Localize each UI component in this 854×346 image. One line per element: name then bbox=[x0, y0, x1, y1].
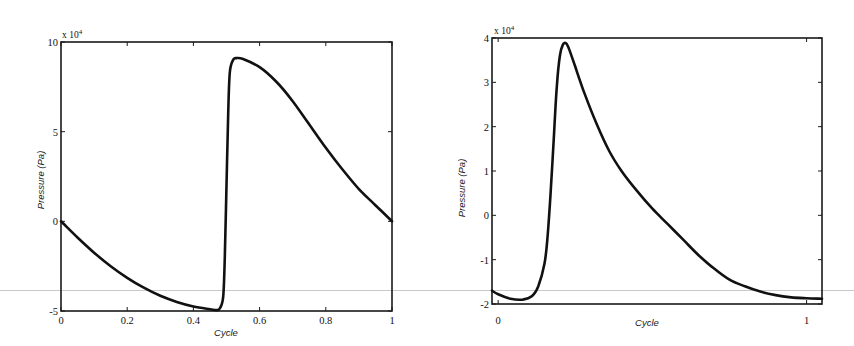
x-tick-label: 0 bbox=[496, 315, 501, 326]
y-tick-label: 2 bbox=[484, 122, 489, 133]
x-tick-label: 1 bbox=[389, 315, 394, 326]
pressure-curve bbox=[492, 43, 822, 300]
x-tick-label: 0 bbox=[58, 315, 63, 326]
right-x-axis-title: Cycle bbox=[635, 317, 659, 328]
right-chart: 01-2-101234 x 104 Cycle Pressure (Pa) bbox=[427, 0, 854, 346]
y-tick-label: -2 bbox=[480, 299, 489, 310]
y-tick-label: 10 bbox=[48, 37, 59, 48]
right-chart-canvas: 01-2-101234 x 104 Cycle Pressure (Pa) bbox=[427, 0, 854, 346]
left-y-axis-title: Pressure (Pa) bbox=[35, 151, 46, 210]
left-exponent-label: x 104 bbox=[62, 28, 83, 40]
y-tick-label: 3 bbox=[484, 77, 489, 88]
x-tick-label: 0.2 bbox=[121, 315, 134, 326]
x-tick-label: 0.8 bbox=[319, 315, 332, 326]
y-tick-label: 1 bbox=[484, 166, 489, 177]
y-tick-label: -1 bbox=[480, 255, 489, 266]
y-tick-label: 4 bbox=[484, 33, 490, 44]
left-chart-canvas: 00.20.40.60.81-50510 x 104 Cycle Pressur… bbox=[0, 0, 427, 346]
x-tick-label: 0.4 bbox=[187, 315, 201, 326]
y-tick-label: 5 bbox=[53, 127, 58, 138]
left-chart: 00.20.40.60.81-50510 x 104 Cycle Pressur… bbox=[0, 0, 427, 346]
x-tick-label: 0.6 bbox=[253, 315, 266, 326]
left-plot-area: 00.20.40.60.81-50510 bbox=[48, 37, 395, 326]
x-tick-label: 1 bbox=[804, 315, 809, 326]
y-tick-label: -5 bbox=[49, 306, 58, 317]
pressure-curve bbox=[61, 58, 392, 310]
y-tick-label: 0 bbox=[484, 210, 489, 221]
axes-frame bbox=[492, 38, 822, 304]
right-exponent-label: x 104 bbox=[494, 24, 515, 36]
left-x-axis-title: Cycle bbox=[214, 327, 238, 338]
right-plot-area: 01-2-101234 bbox=[480, 33, 822, 326]
y-tick-label: 0 bbox=[53, 216, 58, 227]
right-y-axis-title: Pressure (Pa) bbox=[456, 159, 467, 218]
